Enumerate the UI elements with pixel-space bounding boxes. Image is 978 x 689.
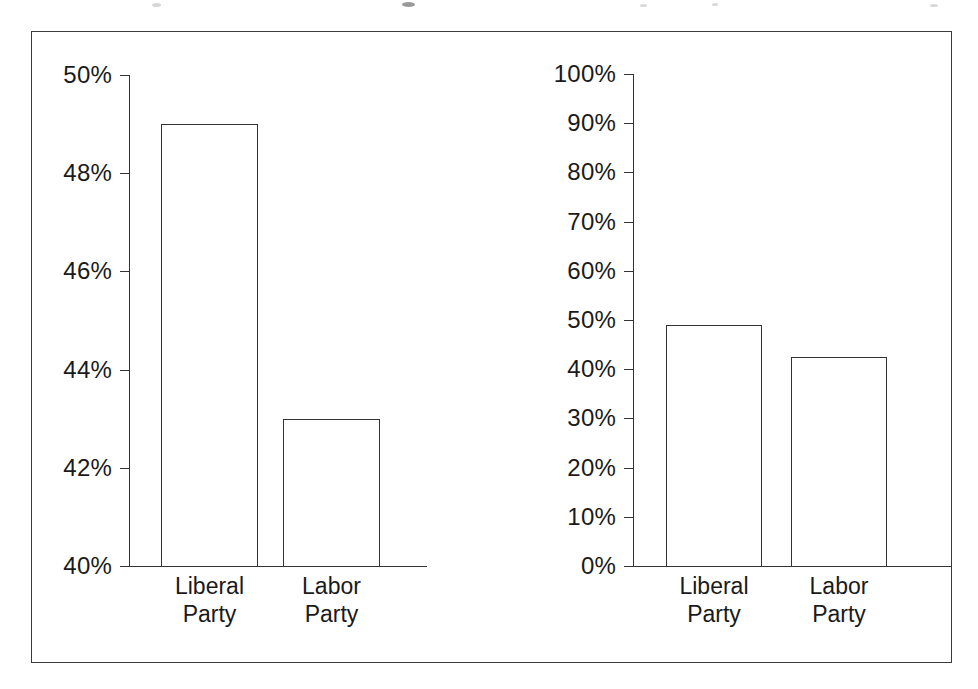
y-axis-tick: [624, 123, 633, 124]
bar-liberal-party: [161, 124, 258, 567]
bar-liberal-party: [666, 325, 762, 567]
y-axis-tick-label: 40%: [0, 552, 112, 580]
y-axis-tick: [624, 172, 633, 173]
y-axis-tick: [120, 370, 129, 371]
y-axis-tick: [624, 74, 633, 75]
y-axis-tick-label: 42%: [0, 454, 112, 482]
y-axis-tick: [624, 369, 633, 370]
category-label-line1: Liberal: [679, 573, 748, 599]
y-axis-tick: [624, 418, 633, 419]
category-label-line2: Party: [759, 600, 919, 628]
y-axis-line: [633, 74, 634, 567]
category-label-line2: Party: [252, 600, 412, 628]
y-axis-tick: [624, 320, 633, 321]
category-label-line1: Liberal: [175, 573, 244, 599]
y-axis-tick-label: 60%: [486, 257, 616, 285]
y-axis-tick-label: 20%: [486, 454, 616, 482]
bar-labor-party: [283, 419, 380, 567]
y-axis-tick-label: 46%: [0, 257, 112, 285]
y-axis-line: [129, 75, 130, 567]
y-axis-tick-label: 90%: [486, 109, 616, 137]
y-axis-tick-label: 80%: [486, 158, 616, 186]
y-axis-tick: [624, 271, 633, 272]
y-axis-tick: [624, 468, 633, 469]
y-axis-tick: [120, 75, 129, 76]
y-axis-tick-label: 40%: [486, 355, 616, 383]
figure-frame: 50%48%46%44%42%40%LiberalPartyLaborParty…: [31, 31, 952, 663]
y-axis-tick-label: 44%: [0, 356, 112, 384]
plot-area-left: 50%48%46%44%42%40%LiberalPartyLaborParty: [32, 32, 492, 664]
plot-area-right: 100%90%80%70%60%50%40%30%20%10%0%Liberal…: [492, 32, 953, 664]
y-axis-tick: [624, 517, 633, 518]
x-axis-category-label: LaborParty: [252, 572, 412, 628]
y-axis-tick-label: 50%: [0, 61, 112, 89]
y-axis-tick: [120, 271, 129, 272]
y-axis-tick-label: 50%: [486, 306, 616, 334]
y-axis-tick-label: 10%: [486, 503, 616, 531]
chart-left-truncated-axis: 50%48%46%44%42%40%LiberalPartyLaborParty: [32, 32, 492, 664]
scan-artifacts: [0, 0, 978, 14]
y-axis-tick: [120, 566, 129, 567]
y-axis-tick-label: 48%: [0, 159, 112, 187]
y-axis-tick-label: 0%: [486, 552, 616, 580]
y-axis-tick: [120, 468, 129, 469]
category-label-line1: Labor: [810, 573, 869, 599]
bar-labor-party: [791, 357, 887, 567]
category-label-line1: Labor: [302, 573, 361, 599]
y-axis-tick-label: 70%: [486, 208, 616, 236]
y-axis-tick: [624, 566, 633, 567]
x-axis-category-label: LaborParty: [759, 572, 919, 628]
y-axis-tick: [624, 222, 633, 223]
y-axis-tick-label: 100%: [486, 60, 616, 88]
chart-right-full-axis: 100%90%80%70%60%50%40%30%20%10%0%Liberal…: [492, 32, 953, 664]
y-axis-tick: [120, 173, 129, 174]
y-axis-tick-label: 30%: [486, 404, 616, 432]
